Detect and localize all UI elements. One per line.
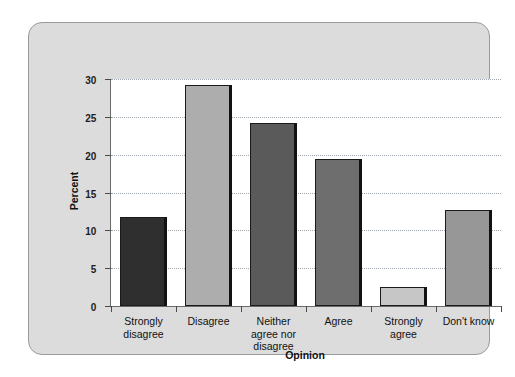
y-axis-tick: 15 <box>105 193 111 194</box>
y-axis-title: Percent <box>68 172 80 211</box>
y-axis-tick: 25 <box>105 117 111 118</box>
y-axis-tick-label: 20 <box>85 150 96 161</box>
chart-figure: Percent 051015202530 Strongly disagreeDi… <box>0 0 515 377</box>
x-axis-tick <box>111 306 112 312</box>
gridline <box>111 117 501 118</box>
x-axis-tick <box>306 306 307 312</box>
chart-panel: Percent 051015202530 Strongly disagreeDi… <box>28 22 490 355</box>
x-axis-tick <box>501 306 502 312</box>
y-axis-tick-label: 10 <box>85 226 96 237</box>
gridline <box>111 230 501 231</box>
gridline <box>111 155 501 156</box>
y-axis-tick: 5 <box>105 268 111 269</box>
bar <box>380 287 427 306</box>
x-axis-tick <box>241 306 242 312</box>
y-axis-tick: 20 <box>105 155 111 156</box>
bar <box>120 217 167 306</box>
gridline <box>111 268 501 269</box>
bar <box>315 159 362 306</box>
plot-area: 051015202530 Strongly disagreeDisagreeNe… <box>110 79 501 307</box>
category-label: Don't know <box>430 315 508 328</box>
y-axis-tick: 30 <box>105 79 111 80</box>
y-axis-tick-label: 15 <box>85 188 96 199</box>
x-axis-tick <box>176 306 177 312</box>
y-axis-tick: 10 <box>105 230 111 231</box>
y-axis-tick-label: 25 <box>85 112 96 123</box>
x-axis-title: Opinion <box>110 349 500 361</box>
y-axis-tick-label: 5 <box>91 264 96 275</box>
y-axis-tick-label: 0 <box>91 302 96 313</box>
gridline <box>111 193 501 194</box>
bar <box>250 123 297 306</box>
bar <box>185 85 232 306</box>
x-axis-tick <box>436 306 437 312</box>
y-axis-tick-label: 30 <box>85 75 96 86</box>
x-axis-tick <box>371 306 372 312</box>
bar <box>445 210 492 306</box>
gridline <box>111 79 501 80</box>
